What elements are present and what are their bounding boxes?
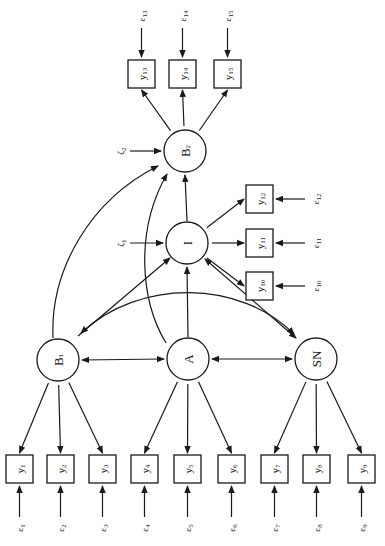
error-label-e13-subscript: 13 bbox=[141, 10, 149, 18]
disturbance-label-zeta1-subscript: 1 bbox=[120, 239, 128, 243]
observed-node-y15: y15 bbox=[214, 60, 241, 88]
observed-label-y9-subscript: 9 bbox=[361, 464, 369, 468]
latent-node-B2: B2 bbox=[164, 130, 206, 172]
error-label-e10: ε10 bbox=[311, 280, 323, 291]
observed-label-y10-subscript: 10 bbox=[259, 279, 267, 287]
observed-node-y7: y7 bbox=[261, 455, 288, 483]
latent-label-SN-main: SN bbox=[309, 350, 324, 367]
observed-node-y3: y3 bbox=[89, 455, 116, 483]
observed-label-y3-subscript: 3 bbox=[102, 464, 110, 468]
error-label-e10-subscript: 10 bbox=[315, 280, 323, 288]
latent-label-A: A bbox=[181, 354, 196, 364]
error-label-e7-subscript: 7 bbox=[274, 524, 282, 528]
latent-label-SN: SN bbox=[309, 350, 324, 367]
error-label-e4: ε4 bbox=[140, 524, 152, 532]
error-label-e6-subscript: 6 bbox=[231, 524, 239, 528]
loading-arrow-SN-y7 bbox=[275, 382, 306, 453]
latent-node-B1: B1 bbox=[37, 339, 79, 381]
loading-arrow-B2-y13 bbox=[142, 90, 171, 131]
error-label-e13: ε13 bbox=[137, 10, 149, 21]
observed-label-y4-subscript: 4 bbox=[144, 464, 152, 468]
path-arrow-I-B2 bbox=[185, 175, 187, 221]
loading-arrow-A-y6 bbox=[198, 382, 231, 453]
observed-label-y5-subscript: 5 bbox=[187, 464, 195, 468]
error-label-e7: ε7 bbox=[270, 524, 282, 532]
observed-node-y10: y10 bbox=[246, 272, 273, 300]
observed-node-y14: y14 bbox=[169, 60, 196, 88]
latent-label-A-main: A bbox=[181, 354, 196, 364]
observed-node-y13: y13 bbox=[128, 60, 155, 88]
loading-arrow-I-y12 bbox=[207, 199, 244, 228]
observed-label-y13-subscript: 13 bbox=[141, 67, 149, 75]
error-label-e15-subscript: 15 bbox=[227, 10, 235, 18]
observed-label-y1-subscript: 1 bbox=[19, 464, 27, 468]
latent-label-B1-subscript: 1 bbox=[57, 353, 65, 357]
error-label-e11: ε11 bbox=[311, 237, 323, 248]
observed-node-y5: y5 bbox=[174, 455, 201, 483]
loading-arrow-B1-y2 bbox=[59, 385, 61, 453]
latent-node-I: I bbox=[166, 222, 208, 264]
variable-nodes: B1ASNIB2y1y2y3y4y5y6y7y8y9y10y11y12y13y1… bbox=[6, 60, 375, 483]
latent-label-I-main: I bbox=[180, 241, 195, 245]
error-label-e11-subscript: 11 bbox=[315, 237, 323, 244]
error-label-e15: ε15 bbox=[223, 10, 235, 21]
sem-path-diagram: ε1ε2ε3ε4ε5ε6ε7ε8ε9ε10ε11ε12ε13ε14ε15ζ1ζ2… bbox=[0, 0, 385, 546]
loading-arrow-B1-y3 bbox=[69, 383, 103, 453]
latent-label-B2-subscript: 2 bbox=[184, 144, 192, 148]
observed-node-y1: y1 bbox=[6, 455, 33, 483]
observed-label-y7-subscript: 7 bbox=[274, 464, 282, 468]
loading-arrow-B1-y1 bbox=[20, 383, 49, 453]
latent-node-SN: SN bbox=[295, 338, 337, 380]
loading-arrow-SN-y9 bbox=[327, 382, 362, 453]
error-label-e8: ε8 bbox=[312, 524, 324, 532]
error-label-e3: ε3 bbox=[98, 524, 110, 532]
observed-node-y9: y9 bbox=[348, 455, 375, 483]
covariance-arrow-B1-A bbox=[82, 359, 164, 360]
error-label-e12: ε12 bbox=[311, 193, 323, 204]
loading-arrow-I-y10 bbox=[207, 258, 244, 286]
latent-node-A: A bbox=[167, 338, 209, 380]
error-label-e14-subscript: 14 bbox=[182, 10, 190, 18]
observed-node-y8: y8 bbox=[303, 455, 330, 483]
disturbance-label-zeta2-subscript: 2 bbox=[120, 147, 128, 151]
error-label-e3-subscript: 3 bbox=[102, 524, 110, 528]
observed-label-y11-subscript: 11 bbox=[259, 236, 267, 243]
error-label-e14: ε14 bbox=[178, 10, 190, 21]
error-label-e9-subscript: 9 bbox=[361, 524, 369, 528]
latent-label-I: I bbox=[180, 241, 195, 245]
observed-label-y6-subscript: 6 bbox=[231, 464, 239, 468]
observed-node-y6: y6 bbox=[218, 455, 245, 483]
observed-node-y2: y2 bbox=[47, 455, 74, 483]
loading-arrow-B2-y15 bbox=[199, 90, 227, 130]
error-label-e8-subscript: 8 bbox=[316, 524, 324, 528]
error-label-e1: ε1 bbox=[15, 524, 27, 532]
error-label-e4-subscript: 4 bbox=[144, 524, 152, 528]
observed-label-y14-subscript: 14 bbox=[182, 67, 190, 75]
error-label-e12-subscript: 12 bbox=[315, 193, 323, 201]
error-label-e2-subscript: 2 bbox=[60, 524, 68, 528]
observed-label-y2-subscript: 2 bbox=[60, 464, 68, 468]
latent-label-B2-main: B bbox=[178, 148, 193, 157]
error-label-e2: ε2 bbox=[56, 524, 68, 532]
disturbance-label-zeta2: ζ2 bbox=[116, 147, 128, 155]
error-label-e5-subscript: 5 bbox=[187, 524, 195, 528]
error-label-e1-subscript: 1 bbox=[19, 524, 27, 528]
path-arrow-A-I bbox=[187, 267, 188, 337]
error-label-e5: ε5 bbox=[183, 524, 195, 532]
observed-node-y11: y11 bbox=[246, 229, 273, 257]
loading-arrow-A-y4 bbox=[145, 382, 178, 453]
latent-label-B1-main: B bbox=[51, 357, 66, 366]
observed-label-y8-subscript: 8 bbox=[316, 464, 324, 468]
observed-node-y12: y12 bbox=[246, 185, 273, 213]
path-arrow-A-B2-curved bbox=[145, 174, 167, 343]
observed-label-y12-subscript: 12 bbox=[259, 192, 267, 200]
disturbance-label-zeta1: ζ1 bbox=[116, 239, 128, 247]
observed-node-y4: y4 bbox=[131, 455, 158, 483]
error-label-e6: ε6 bbox=[227, 524, 239, 532]
observed-label-y15-subscript: 15 bbox=[227, 67, 235, 75]
error-label-e9: ε9 bbox=[357, 524, 369, 532]
loading-arrow-B2-y14 bbox=[183, 90, 184, 126]
